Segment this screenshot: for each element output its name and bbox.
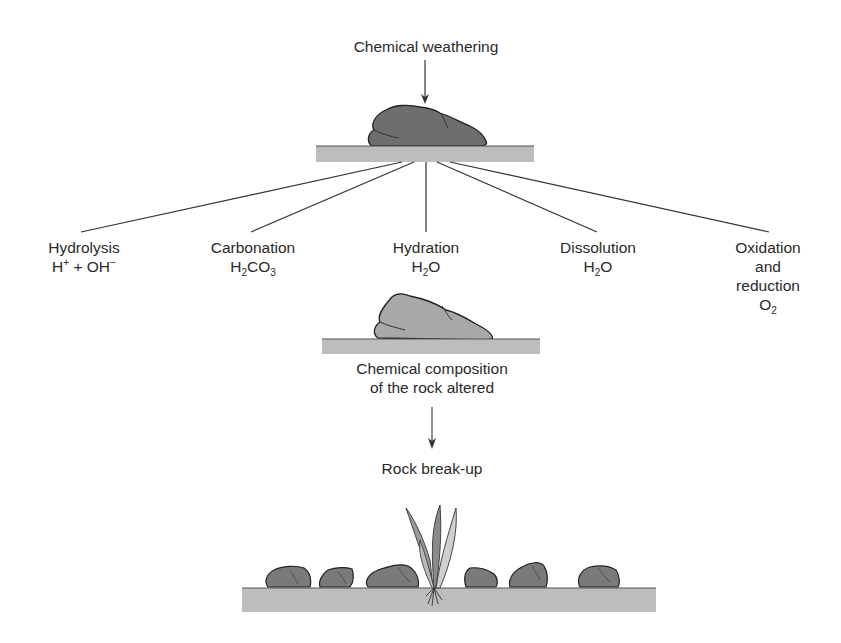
ground-bottom [242, 588, 656, 612]
process-hydrolysis: Hydrolysis H+ + OH− [48, 238, 119, 276]
process-formula: O2 [735, 295, 800, 314]
process-formula: H+ + OH− [48, 257, 119, 276]
process-formula: H2O [560, 257, 636, 276]
process-hydration: Hydration H2O [393, 238, 459, 276]
process-dissolution: Dissolution H2O [560, 238, 636, 276]
ground-top [316, 146, 534, 162]
process-name: Carbonation [211, 238, 295, 257]
process-oxidation-reduction: Oxidation and reduction O2 [735, 238, 800, 314]
ground-middle [322, 339, 540, 354]
process-lines [81, 162, 769, 232]
process-name: Dissolution [560, 238, 636, 257]
outcome-label: Rock break-up [382, 459, 483, 478]
result-label: Chemical composition of the rock altered [356, 359, 508, 397]
process-carbonation: Carbonation H2CO3 [211, 238, 295, 276]
process-formula: H2O [393, 257, 459, 276]
process-name: Hydration [393, 238, 459, 257]
process-name: Oxidation [735, 238, 800, 257]
diagram-artwork [0, 0, 841, 643]
unweathered-rock [368, 105, 486, 146]
process-formula: H2CO3 [211, 257, 295, 276]
diagram-title: Chemical weathering [354, 37, 499, 56]
altered-rock [374, 294, 492, 340]
process-name: Hydrolysis [48, 238, 119, 257]
